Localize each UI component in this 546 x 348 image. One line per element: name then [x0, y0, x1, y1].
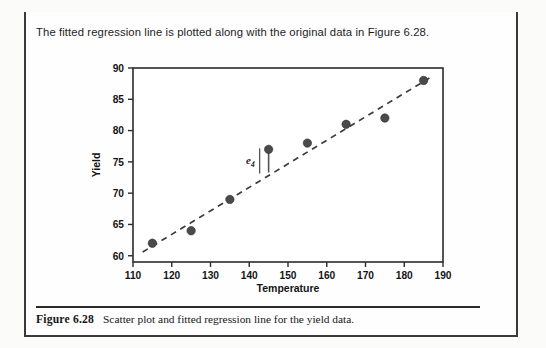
x-tick-label: 120 — [163, 270, 180, 281]
figure-caption-text: Scatter plot and fitted regression line … — [103, 313, 354, 325]
x-tick-label: 180 — [396, 270, 413, 281]
figure-caption: Figure 6.28Scatter plot and fitted regre… — [36, 313, 354, 326]
y-axis-tick-labels: 60657075808590 — [113, 63, 125, 262]
x-axis-tick-labels: 110120130140150160170180190 — [125, 270, 452, 281]
x-tick-label: 190 — [435, 270, 452, 281]
x-tick-label: 140 — [241, 270, 258, 281]
x-tick-label: 170 — [357, 270, 374, 281]
figure-number: Figure 6.28 — [36, 313, 94, 326]
data-point — [342, 120, 350, 128]
data-point — [148, 239, 156, 247]
y-tick-label: 60 — [113, 251, 125, 262]
scatter-chart: 60657075808590 1101201301401501601701801… — [88, 60, 458, 298]
data-point — [187, 227, 195, 235]
caption-divider — [36, 306, 480, 308]
x-tick-label: 130 — [202, 270, 219, 281]
x-tick-label: 110 — [125, 270, 142, 281]
data-point — [419, 76, 427, 84]
x-axis-title: Temperature — [257, 282, 320, 294]
data-point — [381, 114, 389, 122]
y-tick-label: 70 — [113, 188, 125, 199]
data-point — [226, 195, 234, 203]
y-tick-label: 65 — [113, 219, 125, 230]
y-tick-label: 75 — [113, 157, 125, 168]
y-tick-label: 80 — [113, 125, 125, 136]
x-tick-label: 150 — [280, 270, 297, 281]
data-point — [303, 139, 311, 147]
figure-scatter-plot: 60657075808590 1101201301401501601701801… — [88, 60, 458, 298]
intro-paragraph: The fitted regression line is plotted al… — [36, 26, 476, 38]
x-tick-label: 160 — [318, 270, 335, 281]
y-tick-label: 85 — [113, 94, 125, 105]
y-tick-label: 90 — [113, 63, 125, 74]
data-point — [264, 145, 272, 153]
y-axis-title: Yield — [90, 153, 102, 178]
